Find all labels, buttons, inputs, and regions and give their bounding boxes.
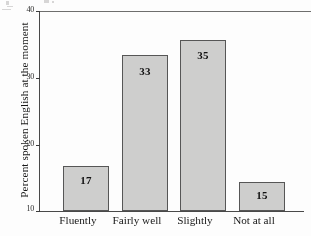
scan-artifact	[44, 0, 49, 3]
plot-area: 17 33 35 15	[39, 11, 311, 211]
bar-fairly-well: 33	[122, 55, 168, 211]
bar-value-fairly-well: 33	[123, 65, 167, 77]
bar-value-not-at-all: 15	[240, 189, 284, 201]
y-axis-title: Percent spoken English at the moment	[18, 10, 30, 210]
scan-artifact	[2, 9, 11, 10]
scan-artifact	[52, 1, 54, 3]
bar-value-fluently: 17	[64, 174, 108, 186]
chart-figure: 40 30 20 10 Percent spoken English at th…	[0, 0, 311, 236]
bar-value-slightly: 35	[181, 49, 225, 61]
bar-fluently: 17	[63, 166, 109, 211]
x-axis-line	[39, 211, 304, 212]
scan-artifact	[6, 1, 9, 5]
x-category-label-not-at-all: Not at all	[219, 214, 289, 226]
bar-slightly: 35	[180, 40, 226, 211]
y-tick-mark-10	[36, 211, 40, 212]
scan-artifact	[7, 6, 13, 7]
bar-not-at-all: 15	[239, 182, 285, 211]
